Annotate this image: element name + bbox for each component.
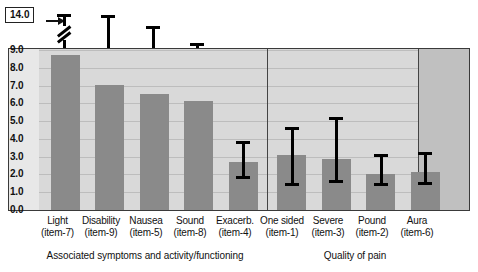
x-label-aura: Aura (item-6) [389,215,445,239]
y-tick-4: 4.0 [10,134,36,144]
bar-light [51,55,80,210]
y-tick-1: 1.0 [10,187,36,197]
group-caption-left: Associated symptoms and activity/functio… [20,250,270,262]
y-tick-6: 6.0 [10,98,36,108]
group-caption-right: Quality of pain [290,250,420,262]
bar-nausea [140,94,169,210]
group-divider-rule [267,49,268,210]
axis-break-icon [56,26,72,44]
error-bar-aura [418,152,432,185]
y-tick-8: 8.0 [10,63,36,73]
gridline-8 [39,68,418,69]
upper-limit-callout-box: 14.0 [5,7,34,23]
plot-area [8,48,470,211]
error-bar-one-sided [285,127,299,186]
chart-figure: 14.0 [0,0,478,272]
gridline-9 [39,50,418,51]
error-bar-exacerb [236,141,250,179]
y-tick-9: 9.0 [10,45,36,55]
error-bar-severe [329,117,343,183]
y-tick-7: 7.0 [10,81,36,91]
y-tick-2: 2.0 [10,169,36,179]
error-bar-pound [374,154,388,186]
x-label-aura-item: (item-6) [389,227,445,239]
bar-disability [95,85,124,210]
y-tick-0: 0.0 [10,205,36,215]
y-tick-3: 3.0 [10,152,36,162]
y-tick-5: 5.0 [10,116,36,126]
upper-limit-callout-value: 14.0 [10,9,29,20]
x-label-aura-name: Aura [389,215,445,227]
bar-sound [184,101,213,210]
